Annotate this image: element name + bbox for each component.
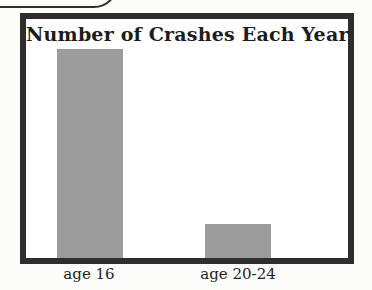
bar-chart-frame: Number of Crashes Each Year	[20, 13, 354, 264]
callout-border-fragment	[0, 0, 118, 8]
bar-age-20-24	[205, 224, 271, 258]
bar-age-16	[57, 49, 123, 258]
x-axis-label-age-20-24: age 20-24	[200, 265, 275, 283]
plot-area	[26, 19, 348, 258]
x-axis-label-age-16: age 16	[63, 265, 114, 283]
